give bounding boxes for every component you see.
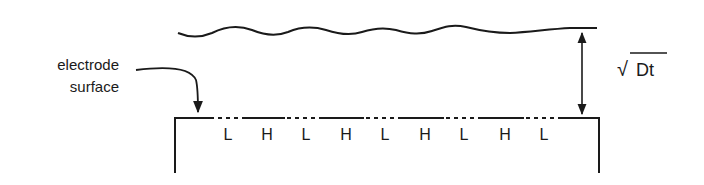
electrode-pointer-arrow-icon: [136, 68, 198, 112]
electrode-label-line2: surface: [70, 78, 119, 95]
region-label: L: [540, 126, 549, 143]
sqrt-expression: Dt: [636, 60, 654, 80]
sqrt-symbol: √: [617, 58, 628, 80]
electrode-left-wall: [175, 118, 210, 173]
region-label: H: [340, 126, 352, 143]
region-label: L: [460, 126, 469, 143]
diffusion-length-label: √ Dt: [617, 53, 667, 80]
diffusion-layer-diagram: L H L H L H L H L electrode surface √ Dt: [0, 0, 704, 185]
region-label: H: [261, 126, 273, 143]
region-label: H: [499, 126, 511, 143]
electrode-right-wall: [560, 118, 599, 173]
region-label: L: [381, 126, 390, 143]
region-label: H: [419, 126, 431, 143]
region-label: L: [302, 126, 311, 143]
region-label: L: [224, 126, 233, 143]
diffusion-layer-boundary: [178, 26, 597, 37]
electrode-label-line1: electrode: [57, 56, 119, 73]
surface-region-labels: L H L H L H L H L: [224, 126, 549, 143]
